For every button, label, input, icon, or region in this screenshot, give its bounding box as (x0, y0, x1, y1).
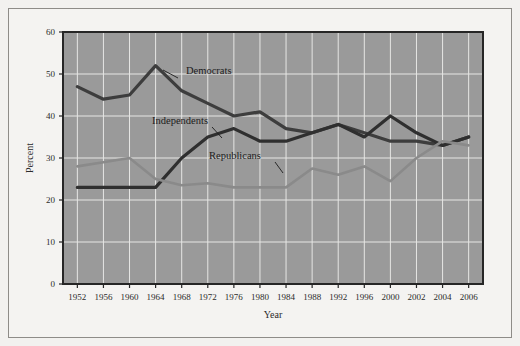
x-tick-label: 1996 (355, 292, 374, 302)
series-label-independents: Independents (152, 115, 208, 126)
series-label-democrats: Democrats (186, 65, 231, 76)
y-tick-label: 30 (46, 153, 56, 163)
y-tick-label: 50 (46, 69, 56, 79)
figure-page: 0102030405060 19521956196019641968197219… (0, 0, 520, 346)
x-axis-title: Year (264, 309, 283, 320)
series-label-republicans: Republicans (209, 150, 261, 161)
x-tick-label: 2000 (381, 292, 400, 302)
x-tick-label: 1976 (225, 292, 244, 302)
y-tick-label: 20 (46, 195, 56, 205)
x-tick-label: 1988 (303, 292, 322, 302)
x-tick-label: 2006 (460, 292, 479, 302)
x-tick-label: 1984 (277, 292, 296, 302)
x-tick-label: 1964 (147, 292, 166, 302)
chart-canvas: 0102030405060 19521956196019641968197219… (0, 0, 520, 346)
x-tick-label: 2002 (407, 292, 425, 302)
x-tick-label: 1956 (94, 292, 113, 302)
x-tick-label: 1980 (251, 292, 270, 302)
y-tick-label: 60 (46, 27, 56, 37)
x-tick-label: 1960 (121, 292, 140, 302)
x-tick-label: 2004 (434, 292, 453, 302)
x-tick-label: 1952 (68, 292, 86, 302)
y-tick-label: 10 (46, 237, 56, 247)
x-tick-label: 1972 (199, 292, 217, 302)
x-tick-label: 1992 (329, 292, 347, 302)
y-axis-title: Percent (24, 143, 35, 173)
y-axis-ticks: 0102030405060 (46, 27, 63, 289)
y-tick-label: 40 (46, 111, 56, 121)
y-tick-label: 0 (51, 279, 56, 289)
x-tick-label: 1968 (173, 292, 192, 302)
line-chart: 0102030405060 19521956196019641968197219… (0, 0, 520, 346)
x-axis-ticks: 1952195619601964196819721976198019841988… (68, 284, 478, 302)
